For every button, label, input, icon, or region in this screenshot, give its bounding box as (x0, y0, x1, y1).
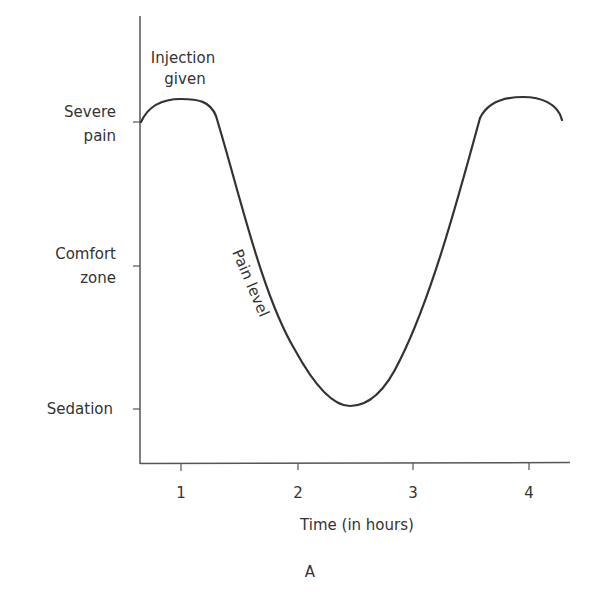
x-label-1: 1 (176, 484, 186, 502)
chart-canvas: Injection given Severe pain Comfort zone… (0, 0, 597, 608)
panel-label: A (305, 563, 316, 581)
y-label-comfort-line1: Comfort (55, 245, 116, 263)
x-label-2: 2 (293, 484, 303, 502)
y-label-severe-line1: Severe (64, 103, 116, 121)
x-axis-title: Time (in hours) (299, 516, 414, 534)
y-label-sedation: Sedation (47, 400, 113, 418)
x-axis (140, 463, 570, 464)
x-label-3: 3 (408, 484, 418, 502)
injection-label-line2: given (164, 70, 205, 88)
y-label-severe-line2: pain (84, 127, 116, 145)
x-label-4: 4 (524, 484, 534, 502)
injection-label-line1: Injection (151, 49, 215, 67)
pain-level-curve (141, 97, 562, 406)
y-label-comfort-line2: zone (80, 269, 116, 287)
